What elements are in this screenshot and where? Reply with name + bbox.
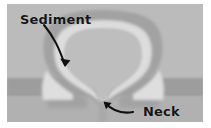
sediment-label: Sediment bbox=[20, 13, 91, 26]
sediment-neck-figure: Sediment Neck bbox=[0, 0, 211, 128]
diagram-canvas: Sediment Neck bbox=[7, 4, 203, 122]
neck-label: Neck bbox=[143, 105, 180, 118]
